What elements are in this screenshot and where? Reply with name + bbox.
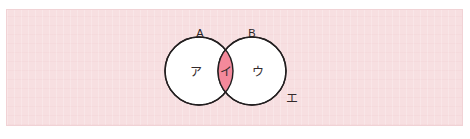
region-label-b-only: ウ <box>252 65 264 79</box>
venn-diagram-svg: A B ア イ ウ エ <box>0 0 470 139</box>
region-label-a-only: ア <box>190 65 202 79</box>
venn-diagram-figure: A B ア イ ウ エ <box>0 0 470 139</box>
set-b-label: B <box>248 27 255 39</box>
region-label-intersection: イ <box>220 65 232 79</box>
region-label-outside: エ <box>286 92 298 106</box>
set-a-label: A <box>196 27 204 39</box>
